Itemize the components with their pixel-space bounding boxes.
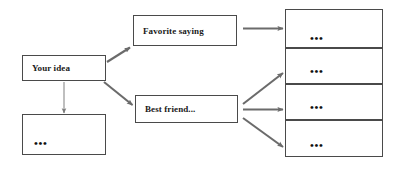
- node-best-friend[interactable]: Best friend...: [135, 95, 238, 123]
- stack-cell-1[interactable]: •••: [285, 9, 383, 48]
- node-left-more-label: •••: [23, 120, 47, 149]
- connector-your-idea-to-favorite-saying: [107, 48, 130, 63]
- stack-cell-1-label: •••: [310, 33, 323, 44]
- connector-best-friend-to-stack-cell-4: [243, 118, 283, 147]
- stack-cell-4-label: •••: [310, 140, 323, 151]
- connector-your-idea-to-best-friend: [104, 82, 133, 105]
- node-favorite-saying[interactable]: Favorite saying: [133, 15, 237, 46]
- connector-best-friend-to-stack-cell-2: [243, 73, 283, 104]
- stack-cell-2[interactable]: •••: [285, 48, 383, 84]
- diagram-canvas: Your idea ••• Favorite saying Best frien…: [0, 0, 408, 174]
- stack-cell-4[interactable]: •••: [285, 120, 383, 157]
- node-best-friend-label: Best friend...: [136, 104, 195, 114]
- stack-cell-3-label: •••: [310, 102, 323, 113]
- node-your-idea[interactable]: Your idea: [22, 55, 106, 81]
- node-favorite-saying-label: Favorite saying: [134, 26, 204, 36]
- node-left-more[interactable]: •••: [22, 114, 106, 155]
- stack-cell-3[interactable]: •••: [285, 84, 383, 120]
- node-your-idea-label: Your idea: [23, 63, 70, 73]
- stack-cell-2-label: •••: [310, 66, 323, 77]
- stacked-boxes-group: ••• ••• ••• •••: [285, 9, 383, 157]
